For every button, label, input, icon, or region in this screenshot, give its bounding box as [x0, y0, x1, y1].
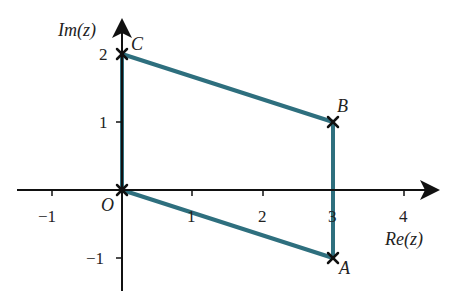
y-tick-label-neg1: −1: [86, 249, 104, 268]
y-axis-label: Im(z): [57, 20, 96, 41]
point-label-c: C: [131, 34, 144, 54]
edge-cb: [122, 54, 333, 122]
edge-ao: [122, 190, 333, 258]
x-tick-label-neg1: −1: [38, 207, 56, 226]
argand-diagram: −1 1 2 3 4 −1 1 2 Im(z) Re(z) O C B A: [0, 0, 454, 295]
x-tick-label-2: 2: [258, 207, 267, 226]
origin-label: O: [101, 195, 114, 215]
point-markers: [117, 49, 338, 263]
axes: [17, 26, 432, 291]
point-label-b: B: [337, 96, 348, 116]
x-axis-label: Re(z): [384, 229, 423, 250]
x-tick-label-1: 1: [187, 207, 196, 226]
y-tick-label-1: 1: [99, 113, 108, 132]
point-label-a: A: [338, 258, 351, 278]
x-tick-label-3: 3: [328, 207, 337, 226]
y-tick-label-2: 2: [99, 45, 108, 64]
x-tick-label-4: 4: [399, 207, 408, 226]
quadrilateral-oabc: [122, 54, 333, 258]
